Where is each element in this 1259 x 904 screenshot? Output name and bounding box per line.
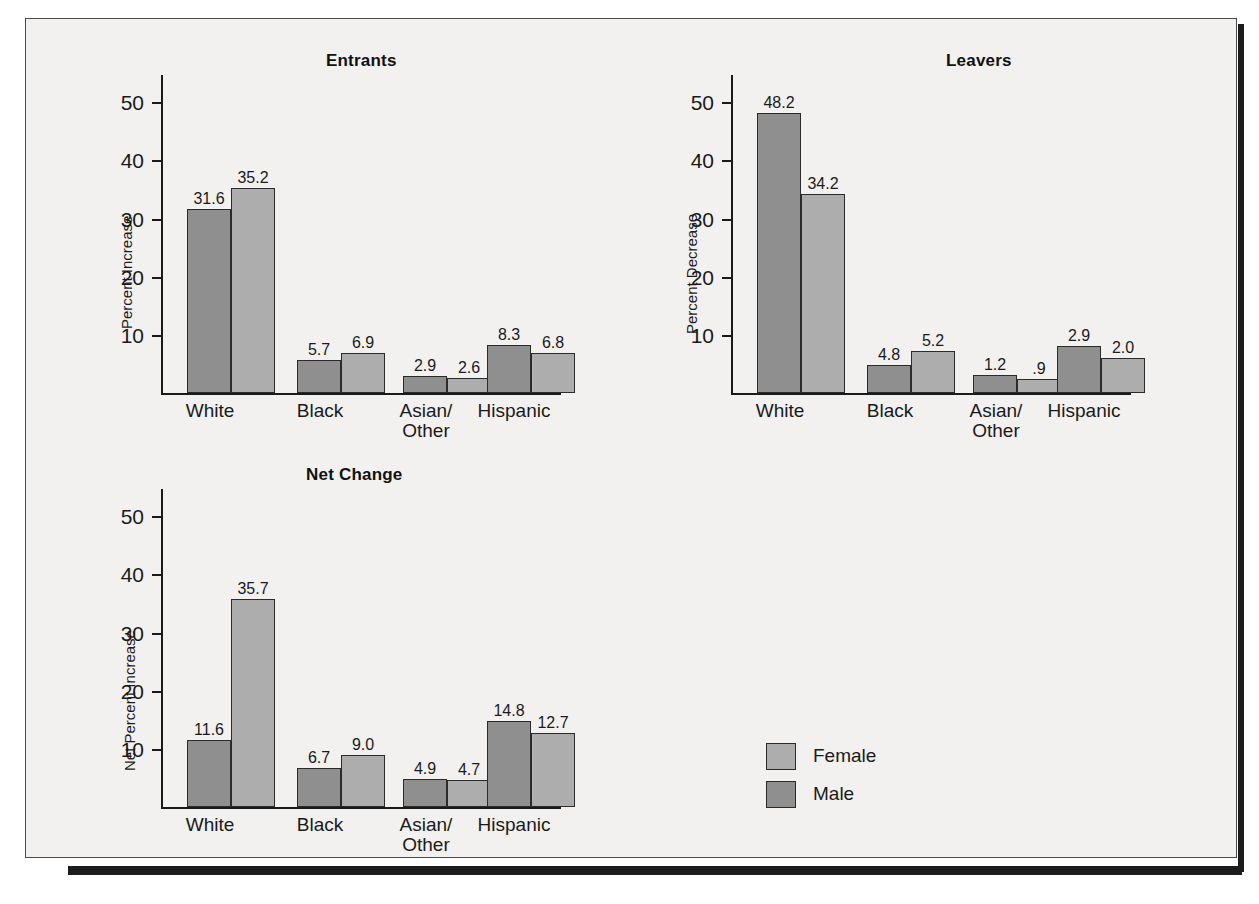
x-axis-line [161, 807, 561, 809]
bar-leavers-black-female: 5.2 Black [911, 351, 955, 394]
bar-value: 6.7 [308, 750, 330, 766]
bar-entrants-black-male: 5.7 [297, 360, 341, 393]
bar-value: 35.7 [237, 581, 268, 597]
cat-label-white: White [186, 815, 235, 835]
cat-label-white: White [186, 401, 235, 421]
cat-label-hispanic: Hispanic [1048, 401, 1121, 421]
y-tick-label-20: 20 [121, 680, 144, 701]
x-axis-line [731, 393, 1131, 395]
legend-item-male: Male [766, 775, 876, 813]
bar-value: 4.9 [414, 761, 436, 777]
y-tick-label-40: 40 [121, 150, 144, 171]
bar-netchange-hispanic-female: 12.7 Hispanic [531, 733, 575, 807]
bar-entrants-white-male: 31.6 [187, 209, 231, 393]
y-tick-label-30: 30 [121, 208, 144, 229]
y-tick-40: 40 [152, 160, 162, 162]
bar-value: 2.9 [1068, 328, 1090, 344]
bar-value: 5.2 [922, 333, 944, 349]
bar-entrants-hispanic-female: 6.8 Hispanic [531, 353, 575, 393]
bar-netchange-asian-female: 4.7 Asian/ Other [447, 780, 491, 807]
legend-swatch-male-icon [766, 781, 796, 808]
bar-value: 12.7 [537, 715, 568, 731]
bar-entrants-white-female: 35.2 White [231, 188, 275, 393]
bar-value: 2.6 [458, 360, 480, 376]
cat-label-black: Black [297, 815, 343, 835]
x-axis-line [161, 393, 561, 395]
y-tick-label-30: 30 [121, 622, 144, 643]
bar-value: .9 [1032, 361, 1045, 377]
bar-entrants-asian-male: 2.9 [403, 376, 447, 393]
bar-leavers-asian-female: .9 Asian/ Other [1017, 379, 1061, 393]
chart-title-entrants: Entrants [326, 51, 397, 71]
y-tick-50: 50 [722, 102, 732, 104]
legend-label-male: Male [813, 783, 854, 805]
cat-label-asian-other: Asian/ Other [400, 815, 453, 855]
chart-panel-leavers: Leavers Percent Decrease 10 20 30 40 50 … [646, 29, 1186, 449]
cat-label-hispanic: Hispanic [478, 815, 551, 835]
legend-label-female: Female [813, 745, 876, 767]
y-axis-line [161, 489, 163, 809]
bar-leavers-hispanic-female: 2.0 Hispanic [1101, 358, 1145, 393]
bar-value: 2.9 [414, 358, 436, 374]
bar-leavers-hispanic-male: 2.9 [1057, 346, 1101, 393]
bar-netchange-white-male: 11.6 [187, 740, 231, 808]
bar-netchange-black-female: 9.0 Black [341, 755, 385, 807]
bar-entrants-asian-female: 2.6 Asian/ Other [447, 378, 491, 393]
y-tick-label-40: 40 [691, 150, 714, 171]
bar-value: 9.0 [352, 737, 374, 753]
y-tick-20: 20 [152, 691, 162, 693]
chart-title-net-change: Net Change [306, 465, 402, 485]
bar-netchange-black-male: 6.7 [297, 768, 341, 807]
bar-value: 34.2 [807, 176, 838, 192]
bar-value: 2.0 [1112, 340, 1134, 356]
bar-value: 8.3 [498, 327, 520, 343]
y-tick-label-20: 20 [691, 266, 714, 287]
bar-value: 6.9 [352, 335, 374, 351]
bar-value: 4.7 [458, 762, 480, 778]
bar-value: 31.6 [193, 191, 224, 207]
y-tick-label-50: 50 [121, 92, 144, 113]
y-tick-50: 50 [152, 102, 162, 104]
y-tick-40: 40 [152, 574, 162, 576]
bar-leavers-white-female: 34.2 White [801, 194, 845, 393]
bar-leavers-black-male: 4.8 [867, 365, 911, 393]
chart-legend: Female Male [766, 737, 876, 813]
y-tick-20: 20 [722, 277, 732, 279]
y-tick-10: 10 [152, 335, 162, 337]
cat-label-black: Black [867, 401, 913, 421]
legend-swatch-female-icon [766, 743, 796, 770]
y-tick-label-10: 10 [121, 738, 144, 759]
plot-area-leavers: 10 20 30 40 50 48.2 34.2 White 4.8 5.2 B… [731, 75, 1131, 395]
bar-netchange-white-female: 35.7 White [231, 599, 275, 807]
frame-shadow-bottom [68, 866, 1242, 875]
bar-entrants-black-female: 6.9 Black [341, 353, 385, 393]
bar-value: 4.8 [878, 347, 900, 363]
y-tick-30: 30 [152, 633, 162, 635]
cat-label-white: White [756, 401, 805, 421]
y-tick-40: 40 [722, 160, 732, 162]
bar-leavers-asian-male: 1.2 [973, 375, 1017, 393]
y-tick-50: 50 [152, 516, 162, 518]
bar-netchange-asian-male: 4.9 [403, 779, 447, 808]
bar-value: 14.8 [493, 703, 524, 719]
bar-value: 6.8 [542, 335, 564, 351]
y-tick-label-20: 20 [121, 266, 144, 287]
chart-panel-net-change: Net Change Net Percent Increase 10 20 30… [56, 443, 576, 863]
y-tick-label-10: 10 [691, 324, 714, 345]
y-tick-20: 20 [152, 277, 162, 279]
chart-title-leavers: Leavers [946, 51, 1012, 71]
cat-label-asian-other: Asian/ Other [970, 401, 1023, 441]
bar-value: 5.7 [308, 342, 330, 358]
cat-label-asian-other: Asian/ Other [400, 401, 453, 441]
y-tick-label-10: 10 [121, 324, 144, 345]
plot-area-entrants: 10 20 30 40 50 31.6 35.2 White 5.7 6.9 B… [161, 75, 561, 395]
bar-value: 48.2 [763, 95, 794, 111]
cat-label-hispanic: Hispanic [478, 401, 551, 421]
y-tick-label-30: 30 [691, 208, 714, 229]
y-tick-30: 30 [722, 219, 732, 221]
y-tick-30: 30 [152, 219, 162, 221]
bar-netchange-hispanic-male: 14.8 [487, 721, 531, 807]
cat-label-black: Black [297, 401, 343, 421]
frame-shadow-right [1238, 24, 1244, 872]
bar-value: 1.2 [984, 357, 1006, 373]
